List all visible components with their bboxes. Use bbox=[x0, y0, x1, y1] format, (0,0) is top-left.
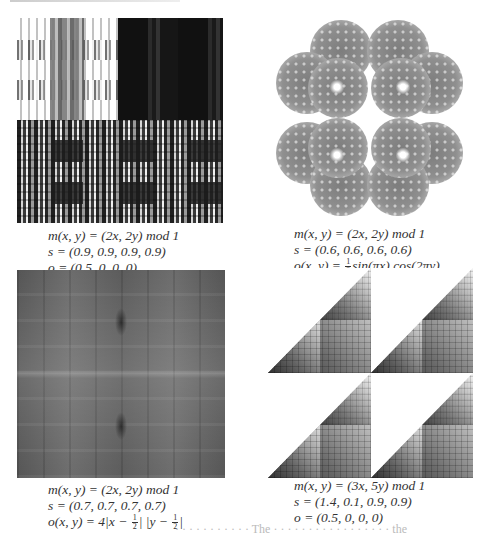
fractal-image-b bbox=[268, 18, 471, 218]
caption-d: m(x, y) = (3x, 5y) mod 1 s = (1.4, 0.1, … bbox=[294, 478, 425, 526]
fractal-image-d bbox=[268, 268, 473, 478]
caption-c: m(x, y) = (2x, 2y) mod 1 s = (0.7, 0.7, … bbox=[48, 482, 183, 531]
fractal-a-gray-column bbox=[50, 18, 84, 120]
fractal-b-hole bbox=[396, 148, 410, 162]
fractal-b-hole bbox=[330, 148, 344, 162]
fractal-d-triangle bbox=[422, 268, 473, 320]
fractal-b-hole bbox=[396, 80, 410, 94]
top-rule bbox=[10, 0, 180, 2]
fractal-a-dark-block bbox=[51, 182, 83, 204]
caption-b-s: s = (0.6, 0.6, 0.6, 0.6) bbox=[294, 242, 440, 258]
fractal-a-top-right bbox=[118, 18, 223, 120]
fractal-b-hole bbox=[330, 80, 344, 94]
caption-a: m(x, y) = (2x, 2y) mod 1 s = (0.9, 0.9, … bbox=[48, 228, 179, 276]
fractal-a-dark-block bbox=[119, 182, 153, 204]
cut-off-body-text: · · · · · · · · · · · The · · · · · · · … bbox=[175, 524, 475, 535]
fractal-a-bottom bbox=[17, 120, 223, 223]
fractal-a-dark-block bbox=[187, 182, 223, 204]
fractal-image-c bbox=[17, 270, 225, 478]
fractal-a-dark-block bbox=[51, 140, 83, 162]
fractal-d-triangle bbox=[371, 320, 422, 373]
fractal-image-a bbox=[17, 18, 223, 223]
caption-a-s: s = (0.9, 0.9, 0.9, 0.9) bbox=[48, 244, 179, 260]
fractal-a-top-left bbox=[17, 18, 118, 120]
fractal-a-dark-block bbox=[187, 140, 223, 162]
fractal-d-triangle bbox=[422, 373, 473, 425]
fractal-d-triangle bbox=[371, 425, 422, 478]
caption-b-m: m(x, y) = (2x, 2y) mod 1 bbox=[294, 226, 440, 242]
caption-d-s: s = (1.4, 0.1, 0.9, 0.9) bbox=[294, 494, 425, 510]
caption-c-o: o(x, y) = 4|x − 12| |y − 12| bbox=[48, 514, 183, 531]
fractal-a-dark-block bbox=[119, 140, 153, 162]
caption-c-s: s = (0.7, 0.7, 0.7, 0.7) bbox=[48, 498, 183, 514]
caption-a-m: m(x, y) = (2x, 2y) mod 1 bbox=[48, 228, 179, 244]
fraction: 12 bbox=[132, 514, 138, 531]
fractal-b-center-hole bbox=[361, 111, 379, 129]
caption-d-m: m(x, y) = (3x, 5y) mod 1 bbox=[294, 478, 425, 494]
caption-c-m: m(x, y) = (2x, 2y) mod 1 bbox=[48, 482, 183, 498]
